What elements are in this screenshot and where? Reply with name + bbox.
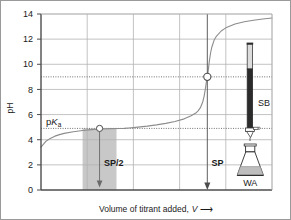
flask-lip (244, 144, 256, 146)
burette-label: SB (258, 98, 270, 108)
flask-neck (246, 146, 255, 152)
titration-curve-figure: SP/2 SP (0, 0, 291, 220)
x-axis-title: Volume of titrant added,V⟶ (99, 204, 213, 214)
x-axis-title-arrow: ⟶ (200, 204, 213, 214)
y-tick-label-0: 0 (28, 185, 33, 195)
stopcock-knob (258, 127, 260, 129)
flask-liquid (237, 167, 263, 175)
x-axis-title-group: Volume of titrant added,V⟶ (99, 204, 213, 214)
y-axis-title: pH (5, 103, 15, 114)
equivalence-point-marker (204, 73, 211, 80)
half-equivalence-point-marker (96, 125, 102, 131)
stopcock-body (245, 128, 254, 131)
stopcock-handle (254, 127, 259, 129)
x-axis-title-prefix: Volume of titrant added, (99, 204, 189, 214)
burette-filled-section (247, 69, 252, 128)
flask-label: WA (243, 178, 257, 188)
y-tick-label-10: 10 (23, 59, 33, 69)
burette-empty-section (247, 44, 252, 69)
pka-label-sub: a (58, 121, 62, 128)
sp-label: SP (212, 158, 224, 168)
sp-half-label: SP/2 (104, 158, 124, 168)
y-tick-label-4: 4 (28, 135, 33, 145)
y-tick-label-8: 8 (28, 85, 33, 95)
y-tick-label-14: 14 (23, 9, 33, 19)
burette-top-cap (247, 43, 254, 45)
y-tick-label-12: 12 (23, 34, 33, 44)
titration-chart-svg: SP/2 SP (0, 0, 291, 220)
y-tick-label-2: 2 (28, 160, 33, 170)
y-tick-label-6: 6 (28, 110, 33, 120)
